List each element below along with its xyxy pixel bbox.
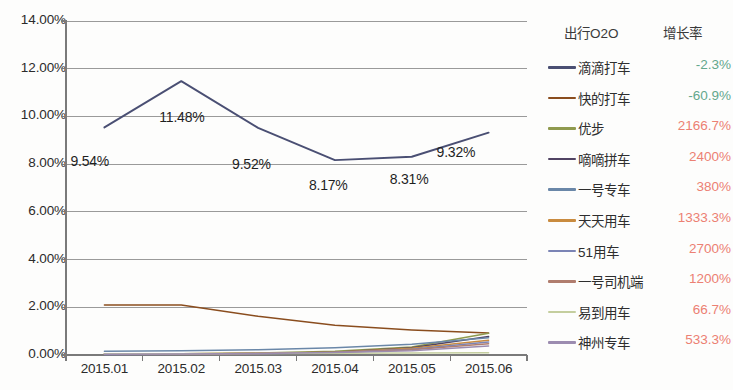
legend-color-swatch (548, 219, 576, 222)
legend-series-name: 一号司机端 (578, 271, 643, 291)
legend-header-name: 出行O2O (564, 22, 619, 42)
legend-item[interactable]: 天天用车1333.3% (545, 208, 733, 238)
legend-item[interactable]: 神州专车533.3% (545, 330, 733, 360)
legend-series-name: 一号专车 (578, 179, 630, 199)
legend-item[interactable]: 快的打车-60.9% (545, 86, 733, 116)
legend-color-swatch (548, 188, 576, 191)
legend-header: 出行O2O 增长率 (545, 22, 733, 42)
legend-color-swatch (548, 66, 576, 69)
legend-item[interactable]: 51用车2700% (545, 239, 733, 269)
data-point-label: 9.32% (437, 144, 476, 160)
series-line (104, 305, 488, 333)
data-point-label: 9.52% (232, 156, 271, 172)
legend-series-name: 天天用车 (578, 210, 630, 230)
legend-color-swatch (548, 280, 576, 283)
legend-growth-rate: 533.3% (685, 332, 731, 347)
legend-color-swatch (548, 97, 576, 100)
legend-series-name: 易到用车 (578, 302, 630, 322)
legend-growth-rate: 1333.3% (678, 210, 731, 225)
chart-legend: 出行O2O 增长率 滴滴打车-2.3%快的打车-60.9%优步2166.7%嘀嘀… (545, 0, 733, 390)
legend-growth-rate: -2.3% (696, 57, 731, 72)
legend-item[interactable]: 优步2166.7% (545, 116, 733, 146)
legend-color-swatch (548, 158, 576, 161)
legend-item[interactable]: 一号专车380% (545, 177, 733, 207)
data-point-label: 8.17% (309, 177, 348, 193)
legend-series-name: 神州专车 (578, 332, 630, 352)
legend-growth-rate: 1200% (689, 271, 731, 286)
x-axis-tick-label: 2015.06 (444, 361, 534, 376)
legend-growth-rate: 66.7% (693, 302, 731, 317)
legend-series-name: 嘀嘀拼车 (578, 149, 630, 169)
legend-series-name: 优步 (578, 118, 604, 138)
legend-color-swatch (548, 127, 576, 130)
legend-item[interactable]: 嘀嘀拼车2400% (545, 147, 733, 177)
legend-growth-rate: 380% (696, 179, 731, 194)
legend-color-swatch (548, 311, 576, 314)
data-point-label: 8.31% (390, 171, 429, 187)
chart-screenshot: 14.00%12.00%10.00%8.00%6.00%4.00%2.00%0.… (0, 0, 733, 390)
legend-series-name: 快的打车 (578, 88, 630, 108)
legend-header-growth-rate: 增长率 (663, 22, 702, 42)
legend-item[interactable]: 易到用车66.7% (545, 300, 733, 330)
legend-growth-rate: 2400% (689, 149, 731, 164)
legend-series-name: 滴滴打车 (578, 57, 630, 77)
line-chart: 14.00%12.00%10.00%8.00%6.00%4.00%2.00%0.… (0, 0, 540, 390)
legend-color-swatch (548, 250, 576, 253)
legend-growth-rate: -60.9% (688, 88, 731, 103)
legend-item[interactable]: 滴滴打车-2.3% (545, 55, 733, 85)
legend-item[interactable]: 一号司机端1200% (545, 269, 733, 299)
legend-color-swatch (548, 341, 576, 344)
data-point-label: 11.48% (159, 109, 204, 125)
legend-series-name: 51用车 (578, 241, 619, 261)
plot-canvas (0, 0, 540, 390)
legend-growth-rate: 2700% (689, 241, 731, 256)
data-point-label: 9.54% (70, 153, 109, 169)
legend-growth-rate: 2166.7% (678, 118, 731, 133)
